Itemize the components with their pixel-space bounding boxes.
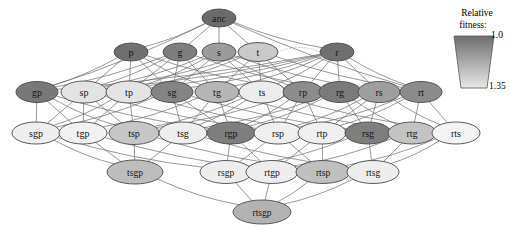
- node-rg[interactable]: rg: [319, 82, 361, 103]
- edge-p-tp: [130, 61, 131, 81]
- legend-top-value: 1.0: [491, 30, 503, 40]
- genotype-network-figure: ancpgstrgpsptpsgtgtsrprgrsrtsgptgptsptsg…: [0, 0, 510, 236]
- edge-p-sp: [95, 60, 122, 83]
- edge-r-rg: [338, 61, 340, 82]
- node-sp[interactable]: sp: [61, 81, 107, 103]
- relative-fitness-legend: Relative fitness: 1.0 1.35: [454, 8, 506, 91]
- node-tgp[interactable]: tgp: [59, 122, 107, 144]
- node-shape-p[interactable]: [114, 43, 148, 61]
- node-rsgp[interactable]: rsgp: [200, 161, 252, 184]
- node-rtp[interactable]: rtp: [298, 122, 346, 144]
- node-rsp[interactable]: rsp: [254, 122, 302, 144]
- node-shape-rts[interactable]: [432, 122, 480, 144]
- legend-gradient-bar: [454, 36, 494, 88]
- node-shape-rtsg[interactable]: [347, 161, 399, 184]
- node-shape-ts[interactable]: [239, 81, 285, 103]
- node-gp[interactable]: gp: [16, 82, 58, 103]
- node-rtsgp[interactable]: rtsgp: [233, 200, 291, 224]
- edge-rgp-rsgp: [228, 144, 230, 161]
- edge-g-sg: [174, 61, 178, 82]
- node-shape-rp[interactable]: [283, 82, 323, 103]
- node-shape-rsg[interactable]: [345, 122, 391, 144]
- node-shape-rt[interactable]: [400, 82, 442, 103]
- node-shape-rtg[interactable]: [388, 122, 436, 144]
- node-s[interactable]: s: [202, 43, 236, 61]
- node-shape-tg[interactable]: [195, 82, 239, 103]
- edge-anc-g: [189, 26, 210, 45]
- node-r[interactable]: r: [320, 43, 354, 61]
- node-rtg[interactable]: rtg: [388, 122, 436, 144]
- node-p[interactable]: p: [114, 43, 148, 61]
- node-tg[interactable]: tg: [195, 82, 239, 103]
- edge-t-r: [278, 48, 320, 53]
- node-shape-rsp[interactable]: [254, 122, 302, 144]
- edge-rp-rsp: [285, 102, 297, 122]
- node-tsgp[interactable]: tsgp: [107, 160, 163, 184]
- node-shape-g[interactable]: [163, 43, 197, 61]
- edge-rtp-rtgp: [285, 143, 310, 163]
- node-tsp[interactable]: tsp: [109, 122, 159, 145]
- node-rtgp[interactable]: rtgp: [246, 161, 298, 184]
- node-tp[interactable]: tp: [106, 81, 152, 103]
- node-g[interactable]: g: [163, 43, 197, 61]
- node-shape-rgp[interactable]: [207, 122, 255, 144]
- node-shape-sp[interactable]: [61, 81, 107, 103]
- edge-rsgp-rtsgp: [236, 183, 252, 201]
- node-shape-rtp[interactable]: [298, 122, 346, 144]
- node-rtsg[interactable]: rtsg: [347, 161, 399, 184]
- node-shape-tsgp[interactable]: [107, 160, 163, 184]
- node-anc[interactable]: anc: [202, 9, 236, 27]
- node-sgp[interactable]: sgp: [12, 122, 60, 144]
- genotype-network-graph: ancpgstrgpsptpsgtgtsrprgrsrtsgptgptsptsg…: [0, 0, 510, 236]
- node-shape-rsgp[interactable]: [200, 161, 252, 184]
- node-shape-tsg[interactable]: [159, 122, 207, 144]
- node-shape-rg[interactable]: [319, 82, 361, 103]
- legend-title-line2: fitness:: [459, 20, 486, 30]
- node-shape-s[interactable]: [202, 43, 236, 61]
- node-t[interactable]: t: [238, 43, 278, 62]
- edge-rtgp-rtsgp: [265, 183, 269, 200]
- node-rp[interactable]: rp: [283, 82, 323, 103]
- node-shape-tp[interactable]: [106, 81, 152, 103]
- edge-t-rp: [267, 60, 292, 83]
- node-shape-rtgp[interactable]: [246, 161, 298, 184]
- legend-bottom-value: 1.35: [489, 81, 506, 91]
- node-tsg[interactable]: tsg: [159, 122, 207, 144]
- edge-rt-rtg: [414, 102, 418, 122]
- node-shape-rs[interactable]: [358, 82, 400, 103]
- node-rtsp[interactable]: rtsp: [296, 161, 350, 184]
- node-rgp[interactable]: rgp: [207, 122, 255, 144]
- node-shape-sg[interactable]: [151, 82, 193, 103]
- node-shape-r[interactable]: [320, 43, 354, 61]
- node-shape-anc[interactable]: [202, 9, 236, 27]
- node-rs[interactable]: rs: [358, 82, 400, 103]
- legend-title-line1: Relative: [461, 8, 493, 18]
- node-shape-gp[interactable]: [16, 82, 58, 103]
- edge-rt-rts: [429, 102, 447, 123]
- node-shape-t[interactable]: [238, 43, 278, 62]
- node-shape-tsp[interactable]: [109, 122, 159, 145]
- node-ts[interactable]: ts: [239, 81, 285, 103]
- node-shape-tgp[interactable]: [59, 122, 107, 144]
- node-rsg[interactable]: rsg: [345, 122, 391, 144]
- node-rt[interactable]: rt: [400, 82, 442, 103]
- node-rts[interactable]: rts: [432, 122, 480, 144]
- node-shape-rtsgp[interactable]: [233, 200, 291, 224]
- edge-r-rp: [311, 60, 330, 82]
- node-shape-sgp[interactable]: [12, 122, 60, 144]
- edge-tgp-tsgp: [96, 142, 122, 161]
- node-shape-rtsp[interactable]: [296, 161, 350, 184]
- node-sg[interactable]: sg: [151, 82, 193, 103]
